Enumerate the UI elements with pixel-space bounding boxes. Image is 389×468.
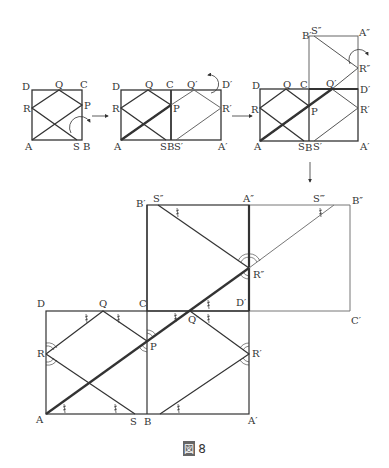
label-Q-prime: Q′ bbox=[188, 314, 199, 325]
label-R: R bbox=[37, 348, 45, 359]
label-S-double-prime: S″ bbox=[153, 193, 164, 204]
label-B: B bbox=[305, 142, 312, 153]
label-C: C bbox=[166, 79, 174, 90]
caption-number: 8 bbox=[198, 442, 206, 456]
label-S-double-prime: S″ bbox=[311, 25, 322, 36]
label-B-prime: B′ bbox=[136, 198, 146, 209]
caption-prefix: 図 bbox=[183, 441, 195, 456]
label-S: S bbox=[73, 141, 80, 152]
panel-3 bbox=[260, 36, 358, 141]
label-C: C bbox=[80, 79, 88, 90]
label-D: D bbox=[37, 298, 45, 309]
label-D-prime: D′ bbox=[236, 297, 247, 308]
label-A: A bbox=[35, 414, 44, 425]
label-S: S bbox=[130, 416, 137, 427]
label-A-prime: A′ bbox=[247, 415, 258, 426]
label-A-prime: A′ bbox=[359, 141, 370, 152]
label-R-prime: R′ bbox=[360, 104, 371, 115]
label-R: R bbox=[112, 103, 120, 114]
label-R: R bbox=[251, 104, 259, 115]
panel-2 bbox=[121, 90, 221, 140]
label-A-prime: A′ bbox=[217, 141, 228, 152]
label-Q: Q bbox=[283, 79, 291, 90]
label-D-prime: D′ bbox=[222, 79, 233, 90]
label-D: D bbox=[22, 81, 30, 92]
big-diagram bbox=[46, 205, 350, 414]
label-A-double-prime: A″ bbox=[242, 193, 254, 204]
label-D-prime: D′ bbox=[360, 84, 371, 95]
label-B: B bbox=[83, 141, 90, 152]
figure-8-diagram: D Q C R P A S B D Q C Q′ D′ R P R′ A S B… bbox=[0, 0, 389, 468]
label-Q: Q bbox=[99, 298, 107, 309]
big-diagram-labels: B′ S″ A″ S‴ B″ R″ C′ D Q C D′ Q′ R P R′ … bbox=[35, 193, 363, 427]
label-Q: Q bbox=[145, 79, 153, 90]
label-R-prime: R′ bbox=[222, 103, 233, 114]
label-P: P bbox=[84, 100, 91, 111]
label-S-triple-prime: S‴ bbox=[313, 193, 325, 204]
rotate-arrow-1 bbox=[70, 117, 90, 133]
label-B-double-prime: B″ bbox=[352, 195, 363, 206]
label-Q-prime: Q′ bbox=[187, 79, 198, 90]
label-S-prime: S′ bbox=[313, 141, 323, 152]
label-P: P bbox=[311, 106, 318, 117]
label-A: A bbox=[24, 141, 33, 152]
label-S-prime: S′ bbox=[174, 141, 184, 152]
label-D: D bbox=[112, 81, 120, 92]
label-R: R bbox=[23, 103, 31, 114]
label-C-prime: C′ bbox=[351, 315, 362, 326]
label-D: D bbox=[252, 80, 260, 91]
label-R-double-prime: R″ bbox=[359, 63, 371, 74]
label-A: A bbox=[253, 141, 262, 152]
label-R-prime: R′ bbox=[252, 348, 263, 359]
figure-caption: 図8 bbox=[0, 441, 389, 456]
label-A-double-prime: A″ bbox=[358, 27, 370, 38]
label-S: S bbox=[160, 141, 167, 152]
label-Q-prime: Q′ bbox=[326, 78, 337, 89]
panel-1 bbox=[32, 90, 82, 140]
label-A: A bbox=[113, 141, 122, 152]
label-C: C bbox=[139, 298, 147, 309]
label-C: C bbox=[300, 79, 308, 90]
label-Q: Q bbox=[55, 79, 63, 90]
label-S: S bbox=[298, 141, 305, 152]
label-B: B bbox=[144, 416, 151, 427]
label-R-double-prime: R″ bbox=[253, 269, 265, 280]
label-P: P bbox=[173, 103, 180, 114]
label-P: P bbox=[150, 341, 157, 352]
